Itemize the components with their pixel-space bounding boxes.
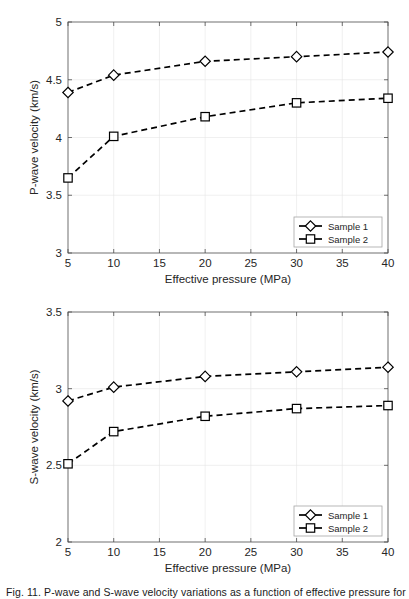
legend-marker bbox=[306, 235, 314, 243]
x-tick-label: 20 bbox=[199, 257, 212, 269]
series-1 bbox=[63, 362, 393, 406]
series-1 bbox=[63, 47, 393, 98]
y-tick-label: 3.5 bbox=[46, 189, 62, 201]
x-tick-label: 40 bbox=[382, 257, 395, 269]
y-axis-title: P-wave velocity (km/s) bbox=[28, 80, 40, 195]
data-point-marker bbox=[292, 404, 300, 412]
data-point-marker bbox=[292, 99, 300, 107]
x-tick-label: 5 bbox=[65, 546, 71, 558]
series-2 bbox=[64, 401, 392, 468]
legend: Sample 1Sample 2 bbox=[294, 217, 382, 247]
data-point-marker bbox=[64, 174, 72, 182]
data-point-marker bbox=[201, 113, 209, 121]
figure-container: 51015202530354033.544.55Effective pressu… bbox=[0, 0, 409, 599]
data-point-marker bbox=[383, 362, 393, 372]
legend-label-2: Sample 2 bbox=[328, 234, 368, 245]
x-tick-label: 10 bbox=[107, 257, 120, 269]
y-tick-label: 2.5 bbox=[46, 459, 62, 471]
legend: Sample 1Sample 2 bbox=[294, 506, 382, 536]
data-point-marker bbox=[384, 94, 392, 102]
data-point-marker bbox=[200, 371, 210, 381]
y-tick-label: 5 bbox=[56, 16, 62, 28]
series-2 bbox=[64, 94, 392, 182]
x-tick-label: 25 bbox=[244, 257, 257, 269]
legend-label-2: Sample 2 bbox=[328, 523, 368, 534]
data-point-marker bbox=[109, 382, 119, 392]
x-tick-label: 30 bbox=[290, 546, 303, 558]
chart-panel-p-wave: 51015202530354033.544.55Effective pressu… bbox=[0, 0, 409, 292]
x-tick-label: 10 bbox=[107, 546, 120, 558]
legend-label-1: Sample 1 bbox=[328, 221, 368, 232]
y-tick-label: 4.5 bbox=[46, 74, 62, 86]
data-point-marker bbox=[383, 47, 393, 57]
s-wave-velocity-chart: 51015202530354022.533.5Effective pressur… bbox=[0, 292, 409, 579]
data-point-marker bbox=[200, 56, 210, 66]
y-tick-label: 3 bbox=[56, 247, 62, 259]
data-point-marker bbox=[63, 396, 73, 406]
x-axis-title: Effective pressure (MPa) bbox=[165, 562, 292, 574]
data-point-marker bbox=[110, 132, 118, 140]
data-point-marker bbox=[384, 401, 392, 409]
data-point-marker bbox=[291, 367, 301, 377]
x-axis-title: Effective pressure (MPa) bbox=[165, 273, 292, 285]
x-tick-label: 35 bbox=[336, 546, 349, 558]
x-tick-label: 25 bbox=[244, 546, 257, 558]
data-point-marker bbox=[201, 412, 209, 420]
y-tick-label: 2 bbox=[56, 536, 62, 548]
figure-caption-strip: Fig. 11. P-wave and S-wave velocity vari… bbox=[0, 588, 409, 599]
y-tick-label: 3 bbox=[56, 383, 62, 395]
data-point-marker bbox=[291, 51, 301, 61]
data-point-marker bbox=[110, 427, 118, 435]
data-point-marker bbox=[64, 460, 72, 468]
x-tick-label: 15 bbox=[153, 546, 166, 558]
x-tick-label: 15 bbox=[153, 257, 166, 269]
chart-panel-s-wave: 51015202530354022.533.5Effective pressur… bbox=[0, 292, 409, 579]
p-wave-velocity-chart: 51015202530354033.544.55Effective pressu… bbox=[0, 0, 409, 292]
x-tick-label: 20 bbox=[199, 546, 212, 558]
x-tick-label: 40 bbox=[382, 546, 395, 558]
figure-caption: Fig. 11. P-wave and S-wave velocity vari… bbox=[6, 588, 406, 598]
y-tick-label: 3.5 bbox=[46, 306, 62, 318]
y-axis-title: S-wave velocity (km/s) bbox=[28, 369, 40, 484]
data-point-marker bbox=[109, 70, 119, 80]
x-tick-label: 30 bbox=[290, 257, 303, 269]
x-tick-label: 5 bbox=[65, 257, 71, 269]
legend-marker bbox=[306, 524, 314, 532]
x-tick-label: 35 bbox=[336, 257, 349, 269]
y-tick-label: 4 bbox=[56, 132, 63, 144]
data-point-marker bbox=[63, 87, 73, 97]
legend-label-1: Sample 1 bbox=[328, 510, 368, 521]
